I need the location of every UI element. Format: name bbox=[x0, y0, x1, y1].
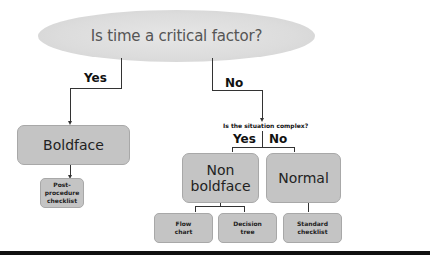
connector-no-vertical bbox=[212, 58, 213, 91]
connector-sub-right-drop bbox=[294, 147, 295, 152]
root-question-node: Is time a critical factor? bbox=[38, 10, 315, 62]
bottom-divider bbox=[0, 251, 430, 255]
connector-sub-horizontal bbox=[232, 147, 295, 148]
standard-checklist-text: Standard checklist bbox=[296, 220, 330, 236]
flow-chart-node: Flow chart bbox=[154, 213, 213, 243]
connector-sub-vertical bbox=[262, 131, 263, 148]
connector-no-horizontal bbox=[212, 90, 263, 91]
post-procedure-node: Post-procedure checklist bbox=[40, 178, 84, 208]
boldface-text: Boldface bbox=[43, 137, 104, 153]
sub-question-text: Is the situation complex? bbox=[223, 122, 308, 129]
normal-text: Normal bbox=[278, 170, 329, 186]
connector-normal-child bbox=[308, 203, 309, 212]
sub-no-label: No bbox=[269, 132, 287, 146]
connector-nonbold-right bbox=[244, 206, 245, 212]
flow-chart-text: Flow chart bbox=[174, 220, 194, 236]
yes-label: Yes bbox=[84, 71, 107, 85]
root-question-text: Is time a critical factor? bbox=[91, 27, 262, 45]
post-procedure-text: Post-procedure checklist bbox=[45, 181, 80, 205]
connector-no-drop bbox=[262, 90, 263, 119]
connector-yes-horizontal bbox=[70, 88, 122, 89]
connector-nonbold-left bbox=[195, 206, 196, 212]
standard-checklist-node: Standard checklist bbox=[283, 213, 342, 243]
non-boldface-node: Non boldface bbox=[182, 153, 259, 203]
sub-yes-label: Yes bbox=[233, 132, 256, 146]
decision-tree-text: Decision tree bbox=[232, 220, 264, 236]
non-boldface-text: Non boldface bbox=[191, 162, 251, 194]
connector-yes-vertical bbox=[121, 58, 122, 89]
decision-tree-node: Decision tree bbox=[218, 213, 277, 243]
boldface-node: Boldface bbox=[17, 125, 130, 165]
normal-node: Normal bbox=[266, 153, 341, 203]
connector-sub-left-drop bbox=[232, 147, 233, 152]
connector-nonbold-horizontal bbox=[195, 206, 245, 207]
no-label: No bbox=[225, 76, 243, 90]
connector-yes-drop bbox=[70, 88, 71, 122]
